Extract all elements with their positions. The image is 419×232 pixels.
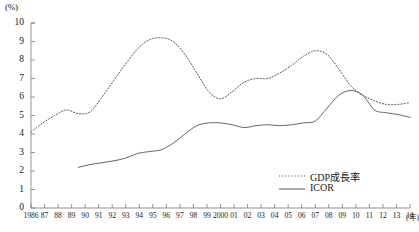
series-line-gdp-growth-rate <box>31 38 410 132</box>
y-axis-tick-label: 4 <box>6 128 24 138</box>
y-axis-tick-label: 3 <box>6 147 24 157</box>
x-axis-tick-label: 06 <box>295 211 309 220</box>
x-axis-tick-label: 94 <box>132 211 146 220</box>
x-axis-tick-label: 13 <box>389 211 403 220</box>
x-axis-tick-label: 11 <box>362 211 376 220</box>
x-axis-tick-label: 09 <box>335 211 349 220</box>
y-axis-unit-label: (%) <box>5 2 18 12</box>
y-axis-tick-label: 2 <box>6 165 24 175</box>
y-axis-tick-label: 9 <box>6 36 24 46</box>
y-axis-tick-label: 1 <box>6 184 24 194</box>
x-axis-tick-label: 91 <box>92 211 106 220</box>
x-axis-tick-label: 02 <box>241 211 255 220</box>
legend-label-icor: ICOR <box>310 182 334 193</box>
x-axis-tick-label: 93 <box>119 211 133 220</box>
x-axis-tick-label: 05 <box>281 211 295 220</box>
legend-group <box>279 176 305 189</box>
x-axis-tick-label: 07 <box>308 211 322 220</box>
y-axis-tick-label: 5 <box>6 110 24 120</box>
x-axis-unit-label: (年) <box>406 211 419 222</box>
x-axis-tick-label: 96 <box>159 211 173 220</box>
series-line-icor <box>78 91 410 168</box>
x-axis-tick-label: 98 <box>186 211 200 220</box>
y-axis-tick-label: 6 <box>6 91 24 101</box>
x-axis-tick-label: 12 <box>376 211 390 220</box>
y-axis-tick-label: 8 <box>6 54 24 64</box>
x-axis-tick-label: 10 <box>349 211 363 220</box>
x-axis-tick-label: 01 <box>227 211 241 220</box>
y-axis-tick-label: 10 <box>6 17 24 27</box>
x-axis-tick-label: 88 <box>51 211 65 220</box>
x-axis-tick-label: 87 <box>38 211 52 220</box>
x-axis-tick-label: 97 <box>173 211 187 220</box>
x-axis-tick-label: 92 <box>105 211 119 220</box>
y-axis-tick-label: 7 <box>6 73 24 83</box>
x-axis-tick-label: 95 <box>146 211 160 220</box>
x-axis-tick-label: 89 <box>65 211 79 220</box>
x-axis-tick-label: 04 <box>268 211 282 220</box>
x-axis-tick-label: 03 <box>254 211 268 220</box>
x-axis-tick-label: 08 <box>322 211 336 220</box>
series-group <box>31 38 410 168</box>
x-axis-tick-label: 90 <box>78 211 92 220</box>
